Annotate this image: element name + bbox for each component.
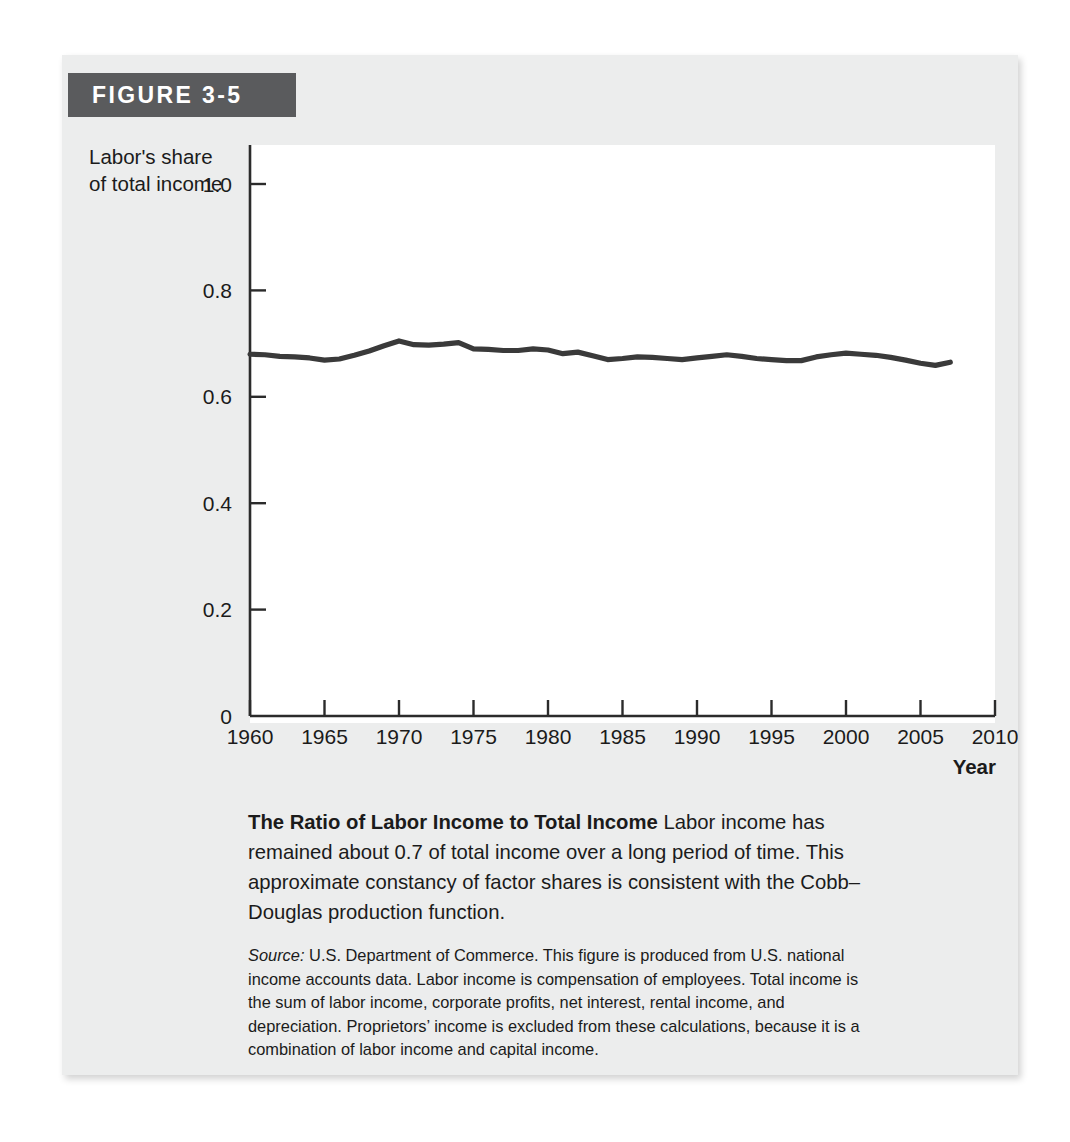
chart-svg: 00.20.40.60.81.0 19601965197019751980198… — [62, 55, 1018, 790]
x-tick-label: 2005 — [897, 725, 944, 748]
source-note: Source: U.S. Department of Commerce. Thi… — [248, 944, 868, 1062]
y-tick-group: 00.20.40.60.81.0 — [203, 173, 266, 728]
x-tick-label: 1985 — [599, 725, 646, 748]
x-tick-label: 1970 — [376, 725, 423, 748]
x-tick-label: 1960 — [227, 725, 274, 748]
y-tick-label: 0.4 — [203, 492, 233, 515]
x-tick-label: 1975 — [450, 725, 497, 748]
figure-panel: FIGURE 3-5 Labor's share of total income… — [62, 55, 1018, 1075]
x-tick-label: 1990 — [674, 725, 721, 748]
x-tick-label: 1980 — [525, 725, 572, 748]
x-tick-label: 2010 — [972, 725, 1018, 748]
y-tick-label: 0.8 — [203, 279, 232, 302]
y-tick-label: 0.2 — [203, 598, 232, 621]
axis-group — [250, 145, 995, 716]
caption-main: The Ratio of Labor Income to Total Incom… — [248, 807, 868, 927]
x-tick-label: 2000 — [823, 725, 870, 748]
x-tick-label: 1995 — [748, 725, 795, 748]
data-series-line — [250, 341, 950, 365]
source-text: U.S. Department of Commerce. This figure… — [248, 946, 860, 1058]
y-tick-label: 1.0 — [203, 173, 232, 196]
caption-block: The Ratio of Labor Income to Total Incom… — [248, 807, 868, 1062]
chart-area: Labor's share of total income 00.20.40.6… — [62, 55, 1018, 790]
source-label: Source: — [248, 946, 305, 964]
x-axis-title: Year — [953, 755, 996, 779]
x-tick-group: 1960196519701975198019851990199520002005… — [227, 700, 1018, 748]
y-tick-label: 0.6 — [203, 385, 232, 408]
x-tick-label: 1965 — [301, 725, 348, 748]
caption-title: The Ratio of Labor Income to Total Incom… — [248, 811, 658, 833]
